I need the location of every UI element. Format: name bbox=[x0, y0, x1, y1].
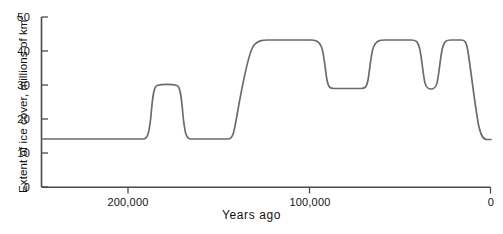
x-tick-label-200000: 200,000 bbox=[88, 196, 168, 208]
axis-lines bbox=[42, 17, 491, 187]
y-axis-ticks bbox=[42, 17, 49, 187]
chart-plot-area bbox=[0, 0, 503, 234]
chart-figure: 50 40 30 20 10 0 200,000 100,000 0 Exten… bbox=[0, 0, 503, 234]
y-axis-title-text: Extent of ice cover, millions of km bbox=[17, 19, 29, 193]
x-axis-title: Years ago bbox=[0, 208, 503, 222]
x-tick-label-0: 0 bbox=[481, 196, 501, 208]
y-axis-title-exponent: 2 bbox=[15, 15, 24, 20]
y-axis-title: Extent of ice cover, millions of km2 bbox=[15, 14, 29, 194]
x-tick-label-100000: 100,000 bbox=[270, 196, 350, 208]
x-axis-ticks bbox=[128, 187, 491, 193]
ice-cover-curve bbox=[42, 40, 491, 140]
